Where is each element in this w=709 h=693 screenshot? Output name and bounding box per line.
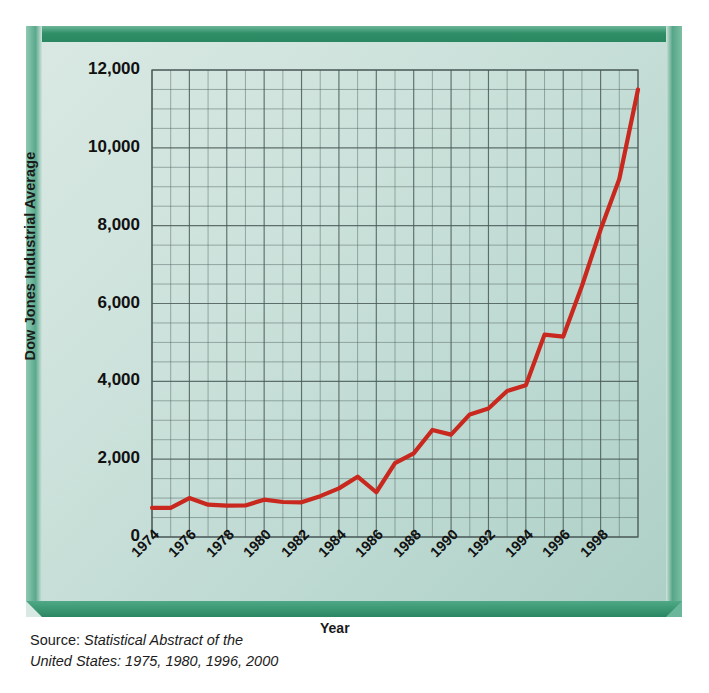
y-tick-label: 12,000	[30, 59, 140, 79]
source-note: Source: Statistical Abstract of the Unit…	[30, 630, 278, 672]
y-tick-label: 6,000	[30, 293, 140, 313]
chart-figure: Dow Jones Industrial Average Year 02,000…	[0, 0, 709, 693]
y-tick-label: 10,000	[30, 137, 140, 157]
source-title-line1: Statistical Abstract of the	[84, 632, 243, 648]
y-tick-label: 4,000	[30, 370, 140, 390]
y-tick-label: 2,000	[30, 448, 140, 468]
source-title-line2: United States: 1975, 1980, 1996, 2000	[30, 653, 278, 669]
y-tick-label: 0	[30, 526, 140, 546]
chart-plot-area	[0, 0, 709, 693]
source-prefix: Source:	[30, 632, 84, 648]
y-tick-label: 8,000	[30, 215, 140, 235]
